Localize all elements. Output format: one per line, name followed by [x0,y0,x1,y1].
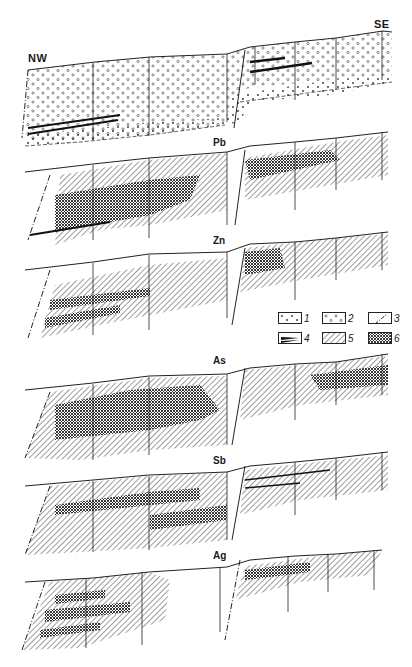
legend-num: 4 [304,333,310,344]
panel-label-zn: Zn [213,235,225,246]
sb-panel [25,452,388,555]
legend-item-5: 5 [322,332,354,344]
legend-item-1: 1 [278,312,310,324]
legend-num: 3 [394,313,400,324]
legend-num: 5 [348,333,354,344]
fault-line-swatch-icon [368,312,392,324]
pb-panel [25,132,388,245]
legend-item-2: 2 [322,312,354,324]
hatch-swatch-icon [322,332,346,344]
legend: 1 2 3 4 5 6 [278,312,410,356]
legend-num: 6 [394,333,400,344]
panel-label-pb: Pb [213,137,226,148]
panel-label-as: As [213,355,226,366]
legend-num: 1 [304,313,310,324]
direction-se-label: SE [374,18,390,30]
legend-item-3: 3 [368,312,400,324]
panel-label-sb: Sb [213,455,226,466]
as-panel [25,354,388,460]
legend-item-4: 4 [278,332,310,344]
legend-num: 2 [348,313,354,324]
crosshatch-swatch-icon [368,332,392,344]
geology-panel [22,31,392,146]
legend-item-6: 6 [368,332,400,344]
circles-swatch-icon [322,312,346,324]
black-band-swatch-icon [278,332,302,344]
crosses-swatch-icon [278,312,302,324]
panel-label-ag: Ag [213,550,226,561]
ag-panel [22,550,382,650]
direction-nw-label: NW [28,52,47,64]
